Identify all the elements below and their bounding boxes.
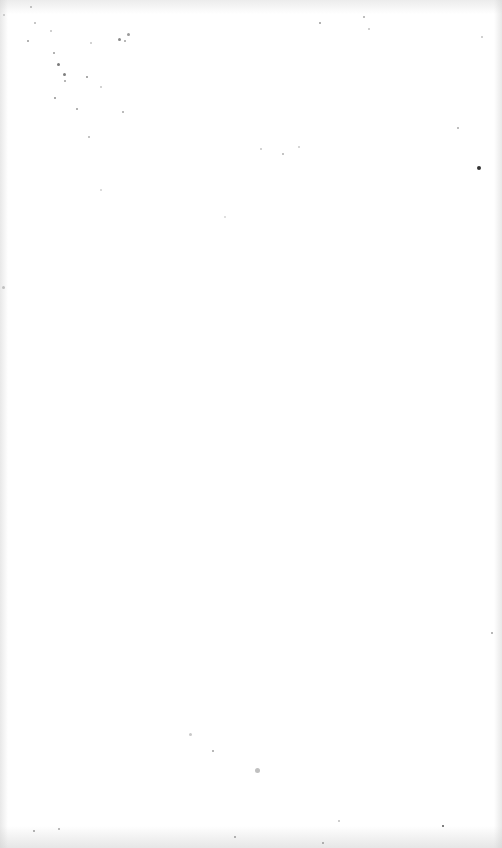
dust-speck [491, 632, 493, 634]
dust-speck [57, 63, 60, 66]
scan-edge-shadow-bottom [0, 826, 502, 848]
dust-speck [189, 733, 192, 736]
dust-speck [34, 22, 36, 24]
dust-speck [322, 842, 324, 844]
dust-speck [122, 111, 124, 113]
scan-edge-shadow-left [0, 0, 8, 848]
dust-speck [282, 153, 284, 155]
dust-speck [255, 768, 260, 773]
dust-speck [363, 16, 365, 18]
dust-speck [88, 136, 90, 138]
dust-speck [90, 42, 92, 44]
dust-speck [100, 86, 102, 88]
dust-speck [319, 22, 321, 24]
scan-edge-shadow-top [0, 0, 502, 14]
dust-speck [118, 38, 121, 41]
dust-speck [86, 76, 88, 78]
dust-speck [27, 40, 29, 42]
dust-speck [2, 286, 5, 289]
dust-speck [30, 6, 32, 8]
dust-speck [477, 166, 481, 170]
dust-speck [481, 36, 483, 38]
dust-speck [234, 836, 236, 838]
dust-speck [58, 828, 60, 830]
dust-speck [53, 52, 55, 54]
blank-document-page [0, 0, 502, 848]
dust-speck [212, 750, 214, 752]
scan-edge-shadow-right [494, 0, 502, 848]
dust-speck [33, 830, 35, 832]
dust-speck [127, 33, 130, 36]
dust-speck [124, 40, 126, 42]
dust-speck [224, 216, 226, 218]
dust-speck [54, 97, 56, 99]
dust-speck [76, 108, 78, 110]
dust-speck [50, 30, 52, 32]
dust-speck [3, 14, 5, 16]
dust-speck [64, 80, 66, 82]
dust-speck [442, 825, 444, 827]
dust-speck [63, 73, 66, 76]
dust-speck [457, 127, 459, 129]
dust-speck [100, 189, 102, 191]
dust-speck [338, 820, 340, 822]
dust-speck [298, 146, 300, 148]
dust-speck [260, 148, 262, 150]
dust-speck [368, 28, 370, 30]
